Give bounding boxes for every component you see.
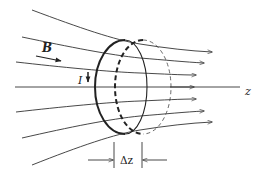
field-line-1 — [32, 10, 212, 52]
diagram-canvas: B I z Δz — [0, 0, 263, 179]
field-line-3 — [16, 62, 196, 75]
z-axis-label: z — [244, 85, 251, 98]
current-label: I — [77, 74, 83, 87]
field-lines — [15, 10, 240, 165]
b-field-arrow-icon — [36, 56, 61, 61]
b-field-label: B — [41, 41, 52, 55]
delta-z-label: Δz — [120, 154, 134, 166]
